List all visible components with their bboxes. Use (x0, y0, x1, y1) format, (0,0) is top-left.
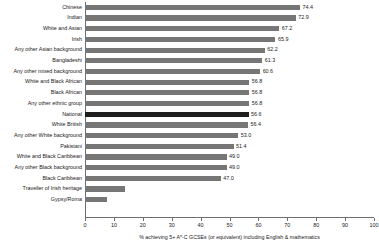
category-label: National (2, 112, 82, 117)
x-tick (258, 218, 259, 221)
x-tick (287, 218, 288, 221)
bar-value-label: 56.8 (252, 90, 263, 95)
category-label: White and Asian (2, 26, 82, 31)
bar (85, 15, 296, 20)
bar-value-label: 56.8 (252, 101, 263, 106)
x-tick (345, 218, 346, 221)
x-tick (201, 218, 202, 221)
bar-row: Chinese74.4 (85, 2, 374, 13)
bar (85, 90, 249, 95)
bar (85, 80, 249, 85)
category-label: Traveller of Irish heritage (2, 186, 82, 191)
bar-row: Any other ethnic group56.8 (85, 98, 374, 109)
bar (85, 26, 279, 31)
bar-row: Black African56.8 (85, 88, 374, 99)
plot-area: Chinese74.4Indian72.9White and Asian67.2… (85, 2, 374, 216)
bar (85, 101, 249, 106)
x-tick-label: 40 (198, 222, 204, 228)
bar-row: Any other Asian background62.2 (85, 45, 374, 56)
bar (85, 69, 260, 74)
bar (85, 112, 249, 117)
category-label: White and Black African (2, 79, 82, 84)
bar (85, 37, 275, 42)
category-label: Any other ethnic group (2, 101, 82, 106)
bar-value-label: 56.4 (251, 122, 262, 127)
bar-value-label: 67.2 (282, 26, 293, 31)
x-tick (143, 218, 144, 221)
bar-row: Any other White background53.0 (85, 130, 374, 141)
bar (85, 133, 238, 138)
bar-value-label: 47.0 (223, 176, 234, 181)
x-tick-label: 0 (84, 222, 87, 228)
bar (85, 165, 227, 170)
x-tick-label: 20 (140, 222, 146, 228)
bar-value-label: 62.2 (267, 47, 278, 52)
category-label: Any other Asian background (2, 47, 82, 52)
bar-value-label: 61.3 (265, 58, 276, 63)
x-tick-label: 30 (169, 222, 175, 228)
bar-row: Any other mixed background60.6 (85, 66, 374, 77)
bar-row: Indian72.9 (85, 13, 374, 24)
category-label: Black African (2, 90, 82, 95)
category-label: Any other White background (2, 133, 82, 138)
category-label: Any other mixed background (2, 69, 82, 74)
x-tick-label: 10 (111, 222, 117, 228)
bar-row: Pakistani51.4 (85, 141, 374, 152)
bar-row: National56.6 (85, 109, 374, 120)
bar (85, 48, 265, 53)
category-label: Pakistani (2, 144, 82, 149)
x-tick (230, 218, 231, 221)
bar-row: Traveller of Irish heritage (85, 184, 374, 195)
x-tick (85, 218, 86, 221)
bar-row: Any other Black background49.0 (85, 162, 374, 173)
bar-value-label: 56.6 (251, 112, 262, 117)
x-tick-label: 80 (313, 222, 319, 228)
bar (85, 154, 227, 159)
category-label: Irish (2, 37, 82, 42)
bar-row: White and Black African56.8 (85, 77, 374, 88)
bar-row: White and Asian67.2 (85, 23, 374, 34)
bar-row: Black Caribbean47.0 (85, 173, 374, 184)
x-tick (172, 218, 173, 221)
category-label: Gypsy/Roma (2, 197, 82, 202)
bar-value-label: 49.0 (229, 154, 240, 159)
bar (85, 144, 234, 149)
bar (85, 58, 262, 63)
x-tick (114, 218, 115, 221)
x-tick-label: 90 (342, 222, 348, 228)
category-label: Indian (2, 15, 82, 20)
bar-value-label: 53.0 (241, 133, 252, 138)
bar-value-label: 49.0 (229, 165, 240, 170)
bar-row: Irish65.9 (85, 34, 374, 45)
bar-row: Gypsy/Roma (85, 194, 374, 205)
category-label: Any other Black background (2, 165, 82, 170)
category-label: White British (2, 122, 82, 127)
bar-value-label: 74.4 (303, 5, 314, 10)
category-label: Chinese (2, 5, 82, 10)
bar-value-label: 65.9 (278, 37, 289, 42)
bar-value-label: 60.6 (263, 69, 274, 74)
x-tick-label: 60 (255, 222, 261, 228)
bar-value-label: 51.4 (236, 144, 247, 149)
x-axis-ticks: 0102030405060708090100 (85, 218, 374, 230)
x-axis-title: % achieving 5+ A*-C GCSEs (or equivalent… (85, 234, 374, 240)
bar-row: Bangladeshi61.3 (85, 55, 374, 66)
x-tick (316, 218, 317, 221)
category-label: White and Black Caribbean (2, 154, 82, 159)
bar-value-label: 56.8 (252, 79, 263, 84)
category-label: Black Caribbean (2, 176, 82, 181)
bar (85, 5, 300, 10)
category-label: Bangladeshi (2, 58, 82, 63)
bar (85, 186, 125, 191)
x-tick-label: 50 (227, 222, 233, 228)
x-tick-label: 100 (370, 222, 379, 228)
bar-row: White and Black Caribbean49.0 (85, 152, 374, 163)
bar (85, 176, 221, 181)
x-tick-label: 70 (284, 222, 290, 228)
bar-row: White British56.4 (85, 120, 374, 131)
bar (85, 197, 107, 202)
x-tick (374, 218, 375, 221)
bar (85, 122, 248, 127)
bar-value-label: 72.9 (298, 15, 309, 20)
